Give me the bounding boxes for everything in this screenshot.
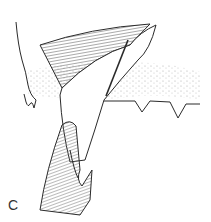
teeth-line — [104, 101, 200, 118]
panel-label: C — [8, 198, 18, 212]
anatomical-illustration — [0, 0, 211, 222]
